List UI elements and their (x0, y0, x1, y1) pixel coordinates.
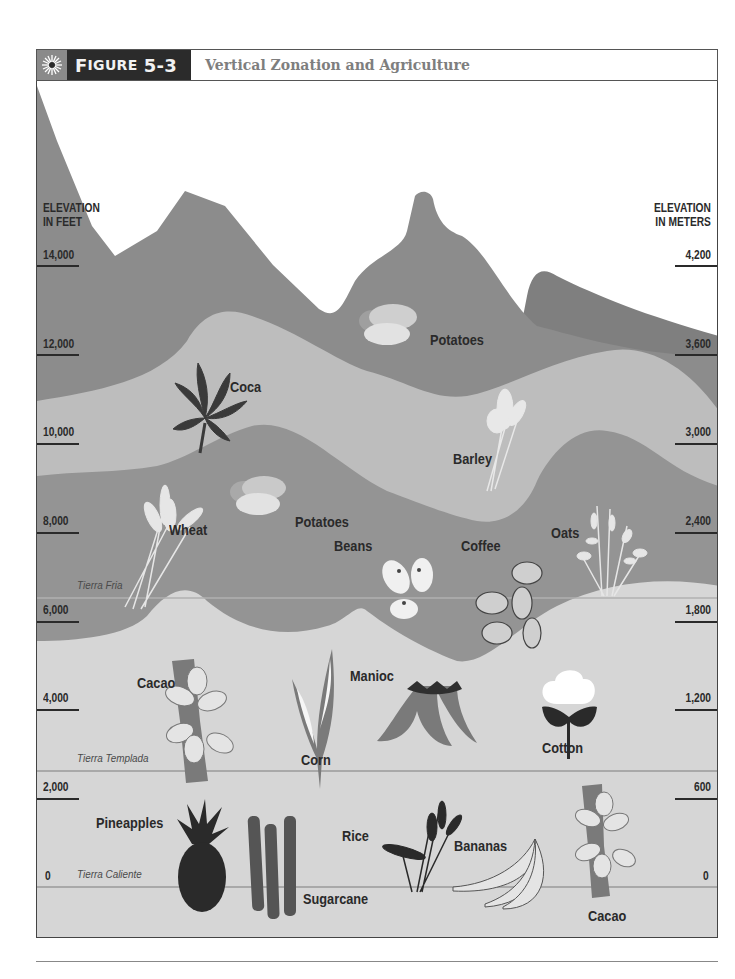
left-tick-mark (37, 443, 79, 445)
right-axis-title-line2: IN METERS (654, 215, 711, 229)
right-tick-label: 600 (694, 780, 711, 794)
zone-label-tierra-fria: Tierra Fria (77, 579, 123, 591)
right-tick-mark (675, 709, 717, 711)
left-tick-label: 2,000 (43, 780, 69, 794)
left-tick-label: 4,000 (43, 691, 69, 705)
right-tick-mark (675, 532, 717, 534)
right-tick-label: 2,400 (685, 514, 711, 528)
crop-label-coca: Coca (230, 378, 261, 395)
left-tick-label: 0 (45, 869, 51, 883)
crop-label-barley: Barley (453, 450, 492, 467)
figure-header: FIGURE 5-3 Vertical Zonation and Agricul… (36, 49, 718, 81)
left-tick-label: 6,000 (43, 603, 69, 617)
crop-label-potatoes: Potatoes (295, 513, 349, 530)
zone-label-tierra-caliente: Tierra Caliente (77, 868, 142, 880)
right-tick-label: 1,200 (685, 691, 711, 705)
figure-label-initial: F (75, 55, 88, 76)
right-axis-title-line1: ELEVATION (654, 201, 711, 215)
crop-label-sugarcane: Sugarcane (303, 890, 368, 907)
figure-number-label: FIGURE 5-3 (67, 50, 191, 80)
figure-number: 5-3 (144, 55, 177, 76)
right-tick-label: 4,200 (685, 248, 711, 262)
left-tick-label: 12,000 (43, 337, 74, 351)
right-axis-title: ELEVATION IN METERS (654, 201, 711, 229)
right-tick-mark (675, 621, 717, 623)
figure-title: Vertical Zonation and Agriculture (191, 50, 470, 80)
left-axis-title-line1: ELEVATION (43, 201, 100, 215)
crop-label-corn: Corn (301, 751, 331, 768)
sugarcane-icon (247, 816, 296, 919)
left-tick-mark (37, 798, 79, 800)
left-tick-label: 10,000 (43, 425, 74, 439)
mountain-illustration (37, 81, 718, 938)
crop-label-wheat: Wheat (169, 521, 207, 538)
left-tick-label: 14,000 (43, 248, 74, 262)
left-axis-title-line2: IN FEET (43, 215, 100, 229)
crop-label-rice: Rice (342, 827, 369, 844)
zone-label-tierra-templada: Tierra Templada (77, 752, 149, 764)
left-tick-label: 8,000 (43, 514, 69, 528)
crop-label-potatoes: Potatoes (430, 331, 484, 348)
crop-label-cotton: Cotton (542, 739, 583, 756)
right-tick-mark (675, 798, 717, 800)
crop-label-oats: Oats (551, 524, 579, 541)
crop-label-coffee: Coffee (461, 537, 501, 554)
right-tick-label: 3,600 (685, 337, 711, 351)
crop-label-cacao: Cacao (588, 907, 626, 924)
zonation-diagram: ELEVATION IN FEET 14,000 12,000 10,000 8… (36, 81, 718, 938)
sun-burst-icon (37, 50, 67, 80)
crop-label-pineapples: Pineapples (96, 814, 163, 831)
left-axis-title: ELEVATION IN FEET (43, 201, 100, 229)
right-tick-mark (675, 265, 717, 267)
left-tick-mark (37, 621, 79, 623)
right-tick-mark (675, 443, 717, 445)
right-tick-label: 3,000 (685, 425, 711, 439)
figure-label-rest: IGURE (88, 57, 138, 73)
crop-label-beans: Beans (334, 537, 372, 554)
right-tick-label: 0 (703, 869, 709, 883)
right-tick-mark (675, 354, 717, 356)
crop-label-bananas: Bananas (454, 837, 507, 854)
bottom-divider (36, 961, 718, 962)
left-tick-mark (37, 265, 79, 267)
right-tick-label: 1,800 (685, 603, 711, 617)
left-tick-mark (37, 532, 79, 534)
left-tick-mark (37, 354, 79, 356)
crop-label-manioc: Manioc (350, 667, 394, 684)
left-tick-mark (37, 709, 79, 711)
crop-label-cacao: Cacao (137, 674, 175, 691)
